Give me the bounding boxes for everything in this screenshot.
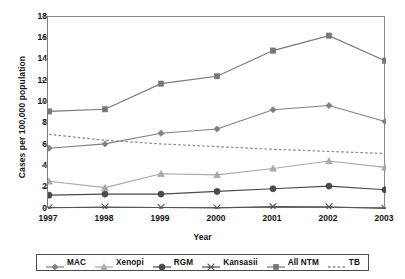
square-marker-icon [266, 258, 286, 268]
y-tick-label: 12 [7, 76, 47, 85]
data-point-marker [326, 102, 332, 108]
y-tick-label: 4 [7, 161, 47, 170]
legend-label: Kansasii [223, 258, 257, 267]
data-point-marker [158, 81, 163, 86]
data-point-marker [382, 187, 386, 193]
data-point-marker [326, 158, 333, 164]
x-tick-label: 1997 [25, 214, 71, 223]
dotted-line-icon [327, 258, 347, 268]
plot-area [47, 16, 385, 208]
y-tick-label: 0 [7, 204, 47, 213]
legend-item-kansasii[interactable]: Kansasii [201, 258, 257, 268]
data-point-marker [214, 126, 220, 132]
data-point-marker [102, 141, 108, 147]
x-axis-title: Year [0, 232, 405, 242]
legend-item-rgm[interactable]: RGM [152, 258, 193, 268]
legend-item-all-ntm[interactable]: All NTM [266, 258, 319, 268]
data-point-marker [273, 264, 278, 269]
y-tick-label: 8 [7, 118, 47, 127]
y-tick-label: 10 [7, 97, 47, 106]
y-tick-label: 16 [7, 33, 47, 42]
data-point-marker [102, 191, 108, 197]
data-point-marker [158, 204, 165, 209]
y-tick-mark [42, 208, 47, 209]
legend-label: RGM [174, 258, 193, 267]
data-point-marker [382, 118, 386, 124]
y-tick-label: 2 [7, 182, 47, 191]
chart-legend: MACXenopiRGMKansasiiAll NTMTB [36, 254, 369, 271]
data-point-marker [214, 205, 221, 209]
y-tick-label: 14 [7, 54, 47, 63]
data-point-marker [270, 186, 276, 192]
legend-label: All NTM [288, 258, 319, 267]
data-point-marker [102, 107, 107, 112]
x-tick-label: 1998 [81, 214, 127, 223]
legend-item-tb[interactable]: TB [327, 258, 360, 268]
data-point-marker [326, 203, 333, 209]
data-point-marker [326, 33, 331, 38]
x-tick-label: 2001 [249, 214, 295, 223]
circle-marker-icon [152, 258, 172, 268]
y-tick-label: 18 [7, 12, 47, 21]
data-point-marker [382, 58, 386, 63]
data-point-marker [48, 204, 52, 209]
x-tick-label: 2003 [361, 214, 405, 223]
data-point-marker [208, 263, 215, 270]
diamond-marker-icon [45, 258, 65, 268]
data-point-marker [270, 203, 277, 209]
legend-item-xenopi[interactable]: Xenopi [94, 258, 144, 268]
data-point-marker [48, 178, 53, 184]
data-point-marker [326, 183, 332, 189]
star-marker-icon [201, 258, 221, 268]
data-point-marker [214, 74, 219, 79]
x-tick-label: 1999 [137, 214, 183, 223]
legend-label: Xenopi [116, 258, 144, 267]
data-point-marker [48, 109, 52, 114]
x-tick-label: 2000 [193, 214, 239, 223]
data-point-marker [48, 192, 52, 198]
data-point-marker [214, 188, 220, 194]
data-point-marker [158, 191, 164, 197]
data-point-marker [48, 145, 52, 151]
triangle-marker-icon [94, 258, 114, 268]
series-all-ntm [48, 33, 386, 114]
data-point-marker [158, 130, 164, 136]
series-kansasii [48, 203, 386, 209]
series-canvas [48, 17, 386, 209]
x-tick-label: 2002 [305, 214, 351, 223]
data-point-marker [382, 205, 386, 209]
data-point-marker [270, 107, 276, 113]
legend-item-mac[interactable]: MAC [45, 258, 86, 268]
line-chart: Cases per 100,000 population 02468101214… [0, 0, 405, 279]
data-point-marker [102, 204, 109, 209]
legend-label: MAC [67, 258, 86, 267]
data-point-marker [52, 263, 58, 269]
legend-label: TB [349, 258, 360, 267]
data-point-marker [159, 263, 165, 269]
series-xenopi [48, 158, 386, 191]
y-tick-label: 6 [7, 140, 47, 149]
data-point-marker [270, 48, 275, 53]
series-rgm [48, 183, 386, 198]
